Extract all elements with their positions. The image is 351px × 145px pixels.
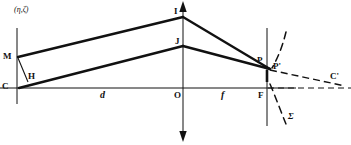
lens-axis-arrow-up	[179, 1, 186, 12]
point-label-m: M	[3, 52, 12, 61]
wavefront-lower-arc	[270, 84, 286, 124]
optical-ray-diagram: (η,ζ) M H C I J O F P P' C' d f Σ	[0, 0, 351, 145]
ray-m-to-i	[18, 17, 183, 57]
point-label-p-prime: P'	[273, 62, 281, 71]
segment-label-d: d	[100, 90, 105, 100]
point-label-c: C	[2, 82, 9, 91]
point-label-i: I	[174, 7, 178, 16]
segment-label-f: f	[221, 90, 224, 100]
point-label-o: O	[174, 91, 181, 100]
ray-c-to-j	[19, 46, 183, 88]
ray-m-to-h	[18, 58, 28, 82]
point-label-h: H	[28, 72, 35, 81]
point-label-f: F	[258, 91, 264, 100]
object-coordinates-label: (η,ζ)	[14, 6, 29, 14]
point-label-j: J	[175, 37, 180, 46]
point-label-p: P	[257, 56, 263, 65]
aperture-symbol-sigma: Σ	[288, 112, 294, 121]
lens-axis-arrow-down	[179, 131, 186, 142]
diagram-canvas	[0, 0, 351, 145]
point-label-c-prime: C'	[330, 72, 339, 81]
